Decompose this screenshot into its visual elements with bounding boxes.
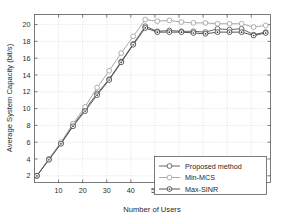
data-point-marker xyxy=(215,21,220,26)
x-tick-label: 40 xyxy=(127,186,135,195)
data-point-center-dot xyxy=(193,32,195,34)
data-point-marker xyxy=(167,18,172,23)
x-tick-label: 10 xyxy=(55,186,63,195)
x-tick-label: 20 xyxy=(79,186,87,195)
data-point-marker xyxy=(155,19,160,24)
data-point-center-dot xyxy=(48,159,50,161)
x-tick-label: 30 xyxy=(103,186,111,195)
data-point-center-dot xyxy=(229,31,231,33)
y-tick-label: 12 xyxy=(23,87,31,96)
y-tick-label: 6 xyxy=(27,138,31,147)
data-point-marker xyxy=(107,68,112,73)
chart-legend: Proposed methodMin-MCSMax-SINR xyxy=(155,157,267,195)
data-point-center-dot xyxy=(217,31,219,33)
data-point-center-dot xyxy=(96,94,98,96)
data-point-center-dot xyxy=(253,35,255,37)
y-tick-label: 10 xyxy=(23,104,31,113)
data-point-marker xyxy=(227,21,232,26)
data-point-marker xyxy=(119,51,124,56)
y-tick-label: 18 xyxy=(23,37,31,46)
data-point-center-dot xyxy=(72,125,74,127)
x-axis-title: Number of Users xyxy=(123,205,181,214)
data-point-center-dot xyxy=(84,110,86,112)
legend-marker-icon xyxy=(167,164,172,169)
data-point-marker xyxy=(143,17,148,22)
y-tick-label: 14 xyxy=(23,71,31,80)
y-tick-label: 8 xyxy=(27,121,31,130)
data-point-center-dot xyxy=(265,32,267,34)
legend-marker-center-dot xyxy=(169,188,171,190)
data-point-center-dot xyxy=(60,143,62,145)
data-point-marker xyxy=(131,34,136,39)
data-point-marker xyxy=(95,85,100,90)
chart-figure: 102030405060708090 2468101214161820 Numb… xyxy=(0,0,281,224)
chart-svg: 102030405060708090 2468101214161820 Numb… xyxy=(0,0,281,224)
data-point-center-dot xyxy=(156,31,158,33)
data-point-center-dot xyxy=(205,33,207,35)
data-point-center-dot xyxy=(108,79,110,81)
legend-label: Max-SINR xyxy=(185,185,218,194)
data-point-marker xyxy=(251,25,256,30)
data-point-center-dot xyxy=(132,44,134,46)
data-point-center-dot xyxy=(120,62,122,64)
data-point-center-dot xyxy=(144,27,146,29)
data-point-marker xyxy=(239,21,244,26)
data-point-marker xyxy=(203,21,208,26)
data-point-center-dot xyxy=(169,31,171,33)
y-tick-label: 20 xyxy=(23,20,31,29)
legend-label: Min-MCS xyxy=(185,173,215,182)
y-tick-label: 16 xyxy=(23,54,31,63)
legend-label: Proposed method xyxy=(185,162,242,171)
data-point-marker xyxy=(191,21,196,26)
data-point-marker xyxy=(179,20,184,25)
data-point-center-dot xyxy=(181,31,183,33)
legend-marker-icon xyxy=(167,175,172,180)
data-point-marker xyxy=(263,23,268,28)
y-axis-title: Average System Capacity (bit/s) xyxy=(5,43,14,152)
data-point-center-dot xyxy=(241,31,243,33)
y-tick-label: 4 xyxy=(27,155,31,164)
y-tick-label: 2 xyxy=(27,171,31,180)
data-point-center-dot xyxy=(36,175,38,177)
